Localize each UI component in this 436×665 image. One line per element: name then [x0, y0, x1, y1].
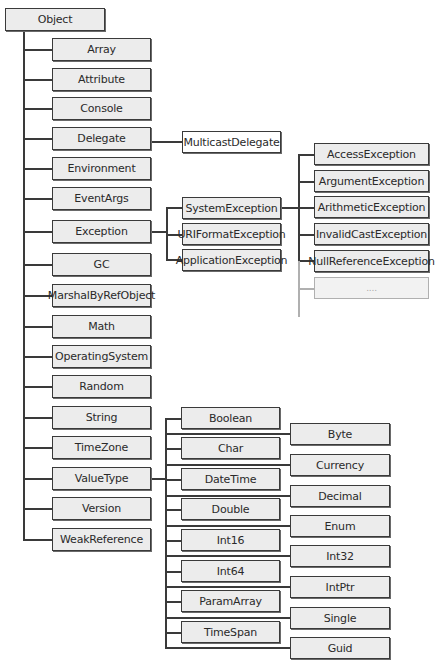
node-boolean: Boolean: [181, 407, 280, 429]
node-arithmeticexception: ArithmeticException: [314, 196, 429, 218]
connector-line: [23, 386, 52, 388]
node-multicastdelegate: MulticastDelegate: [182, 131, 281, 153]
node-byte: Byte: [290, 423, 390, 445]
node-enum: Enum: [290, 515, 390, 537]
connector-line: [165, 418, 167, 648]
connector-line: [165, 433, 290, 435]
node-double: Double: [181, 498, 280, 520]
node-char: Char: [181, 437, 280, 459]
connector-line: [165, 540, 181, 542]
connector-line: [298, 288, 314, 290]
node-guid: Guid: [290, 637, 390, 659]
connector-line: [23, 356, 52, 358]
connector-line: [165, 647, 290, 649]
node-gc: GC: [52, 253, 151, 276]
connector-line: [165, 586, 290, 588]
connector-line: [23, 326, 52, 328]
connector-line: [165, 632, 181, 634]
node-version: Version: [52, 497, 151, 520]
class-hierarchy-diagram: ObjectArrayAttributeConsoleDelegateEnvir…: [0, 0, 436, 665]
connector-line: [298, 154, 314, 156]
node-more: ....: [314, 277, 429, 299]
node-marshalbyrefobject: MarshalByRefObject: [52, 284, 151, 307]
connector-line: [23, 447, 52, 449]
connector-line: [23, 168, 52, 170]
connector-line: [23, 231, 52, 233]
node-array: Array: [52, 38, 151, 61]
connector-line: [165, 464, 290, 466]
connector-line: [166, 207, 182, 209]
node-uriformatexception: URIFormatException: [182, 223, 281, 245]
connector-line: [165, 495, 290, 497]
node-applicationexception: ApplicationException: [182, 249, 281, 271]
node-random: Random: [52, 375, 151, 398]
node-decimal: Decimal: [290, 485, 390, 507]
connector-line: [165, 479, 181, 481]
connector-line: [23, 539, 52, 541]
node-eventargs: EventArgs: [52, 187, 151, 210]
connector-line: [23, 138, 52, 140]
node-weakreference: WeakReference: [52, 528, 151, 551]
connector-line: [151, 478, 166, 480]
connector-line: [23, 49, 52, 51]
node-math: Math: [52, 315, 151, 338]
connector-line: [165, 571, 181, 573]
connector-line: [165, 418, 181, 420]
connector-line: [165, 601, 181, 603]
connector-line: [23, 198, 52, 200]
node-int32: Int32: [290, 545, 390, 567]
connector-line: [23, 508, 52, 510]
connector-line: [23, 79, 52, 81]
node-valuetype: ValueType: [52, 467, 151, 490]
node-operatingsystem: OperatingSystem: [52, 345, 151, 368]
node-single: Single: [290, 607, 390, 629]
node-exception: Exception: [52, 220, 151, 243]
node-delegate: Delegate: [52, 127, 151, 150]
connector-line: [165, 448, 181, 450]
connector-line: [23, 478, 52, 480]
node-attribute: Attribute: [52, 68, 151, 91]
node-string: String: [52, 406, 151, 429]
node-timespan: TimeSpan: [181, 621, 280, 643]
connector-line: [298, 181, 314, 183]
node-invalidcastexception: InvalidCastException: [314, 223, 429, 245]
node-currency: Currency: [290, 454, 390, 476]
connector-line: [151, 231, 166, 233]
node-datetime: DateTime: [181, 468, 280, 490]
node-paramarray: ParamArray: [181, 590, 280, 612]
connector-line: [165, 555, 290, 557]
node-systemexception: SystemException: [182, 197, 281, 219]
connector-line: [23, 108, 52, 110]
connector-line: [298, 154, 300, 261]
node-environment: Environment: [52, 157, 151, 180]
connector-line: [151, 141, 182, 143]
node-object: Object: [5, 8, 105, 31]
connector-line: [23, 264, 52, 266]
node-intptr: IntPtr: [290, 576, 390, 598]
node-int64: Int64: [181, 560, 280, 582]
connector-line: [165, 617, 290, 619]
node-nullreferenceexception: NullReferenceException: [314, 250, 429, 272]
connector-line: [23, 417, 52, 419]
node-argumentexception: ArgumentException: [314, 170, 429, 192]
node-int16: Int16: [181, 529, 280, 551]
connector-line: [165, 509, 181, 511]
connector-line: [165, 525, 290, 527]
node-console: Console: [52, 97, 151, 120]
node-accessexception: AccessException: [314, 143, 429, 165]
connector-line: [298, 234, 314, 236]
node-timezone: TimeZone: [52, 436, 151, 459]
